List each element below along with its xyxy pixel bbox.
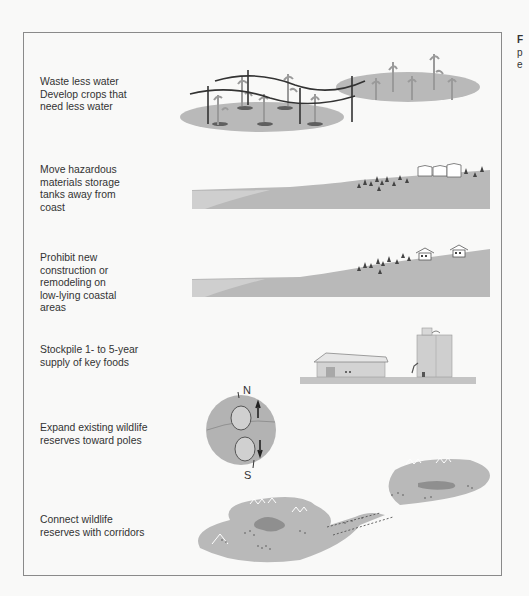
illustrations: N S xyxy=(0,0,529,596)
globe-south-label: S xyxy=(244,469,251,481)
wildlife-corridor-icon xyxy=(198,458,490,562)
coastline-storage-tanks-icon xyxy=(192,164,490,210)
globe-north-label: N xyxy=(243,384,251,396)
barn-silo-icon xyxy=(300,328,476,384)
crop-fields-icon xyxy=(180,54,480,132)
coastline-houses-icon xyxy=(192,245,490,297)
globe-icon: N S xyxy=(206,384,276,481)
